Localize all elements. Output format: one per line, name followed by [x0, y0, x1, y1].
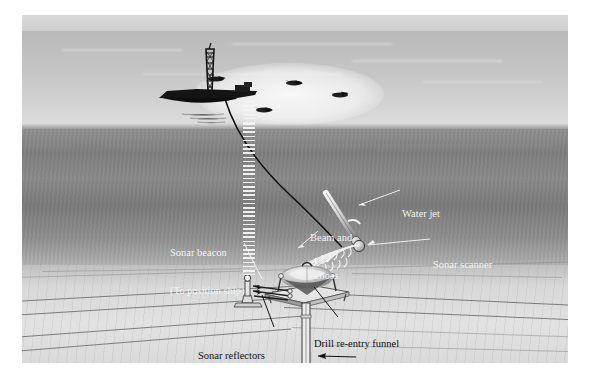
label-water-jet-line1: Water jet: [402, 208, 440, 221]
surface-reflection: [182, 114, 226, 123]
sonar-scanner-head: [354, 241, 365, 252]
label-beam-and-echoes: Beam and echoes: [310, 207, 352, 307]
beacon-acoustic-column-upper: [243, 101, 255, 125]
label-beam-and-echoes-line1: Beam and: [310, 232, 352, 245]
beacon-acoustic-column: [243, 123, 255, 275]
drill-casing: [301, 303, 311, 363]
illustration-plate: Sonar beacon (To position ship) Beam and…: [22, 15, 568, 363]
label-sonar-beacon-line2: (To position ship): [170, 285, 245, 298]
label-drill-casing: Drill casing: [335, 351, 384, 363]
label-sonar-scanner-line1: Sonar scanner: [433, 259, 492, 272]
label-drill-re-entry-funnel-line1: Drill re-entry funnel: [314, 338, 399, 351]
label-sonar-beacon: Sonar beacon (To position ship): [170, 222, 245, 322]
label-sonar-scanner: Sonar scanner: [433, 234, 492, 297]
illustration-figure: Sonar beacon (To position ship) Beam and…: [0, 0, 590, 379]
diagram-overlay: [22, 15, 568, 363]
drill-ship: [159, 43, 257, 103]
label-sonar-reflectors: Sonar reflectors: [198, 325, 265, 363]
label-beam-and-echoes-line2: echoes: [310, 270, 352, 283]
label-sonar-beacon-line1: Sonar beacon: [170, 247, 245, 260]
label-sonar-reflectors-line1: Sonar reflectors: [198, 350, 265, 363]
